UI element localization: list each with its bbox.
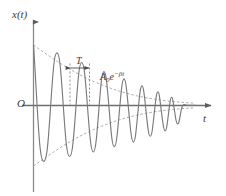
damped-oscillation-figure: x(t) O t T A0e−βt — [0, 0, 226, 196]
period-label: T — [76, 56, 82, 66]
lower-envelope-curve — [34, 108, 195, 166]
damped-oscillation-curve — [34, 45, 197, 161]
origin-label: O — [17, 98, 25, 109]
plot-canvas — [0, 0, 226, 196]
x-axis-label: t — [203, 113, 206, 124]
envelope-equation-label: A0e−βt — [100, 71, 124, 84]
envelope-exponent: −βt — [114, 70, 124, 78]
y-axis-label: x(t) — [12, 9, 27, 20]
